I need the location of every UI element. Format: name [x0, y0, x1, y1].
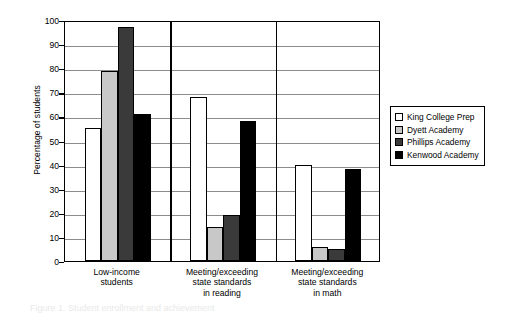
y-tick-mark-70 — [59, 93, 64, 94]
bar-g1-s0 — [190, 97, 207, 261]
y-tick-mark-60 — [59, 117, 64, 118]
y-tick-mark-20 — [59, 214, 64, 215]
x-label-line: students — [57, 277, 177, 287]
x-label-line: Meeting/exceeding — [267, 267, 387, 277]
bar-g0-s2 — [118, 27, 135, 261]
y-tick-label-90: 90 — [33, 41, 59, 50]
legend-item-0: King College Prep — [395, 111, 479, 124]
bar-g0-s1 — [101, 71, 118, 261]
y-tick-label-10: 10 — [33, 234, 59, 243]
gridline-90 — [65, 46, 379, 47]
y-tick-mark-10 — [59, 238, 64, 239]
bar-g1-s2 — [223, 215, 240, 261]
bar-g1-s1 — [207, 227, 224, 261]
x-axis-group-label-1: Meeting/exceedingstate standardsin readi… — [162, 267, 282, 298]
chart-legend: King College PrepDyett AcademyPhillips A… — [390, 106, 485, 166]
x-label-line: state standards — [162, 277, 282, 287]
legend-item-2: Phillips Academy — [395, 136, 479, 149]
plot-area — [64, 21, 380, 262]
x-label-line: state standards — [267, 277, 387, 287]
y-tick-label-30: 30 — [33, 185, 59, 194]
y-tick-mark-0 — [59, 262, 64, 263]
bar-g0-s0 — [85, 128, 102, 261]
legend-label: King College Prep — [407, 113, 475, 121]
legend-swatch-icon — [395, 126, 403, 134]
group-separator-1 — [276, 22, 277, 261]
y-tick-mark-50 — [59, 142, 64, 143]
legend-swatch-icon — [395, 113, 403, 121]
y-tick-mark-100 — [59, 21, 64, 22]
y-tick-mark-40 — [59, 166, 64, 167]
legend-item-3: Kenwood Academy — [395, 149, 479, 162]
x-axis-group-label-0: Low-incomestudents — [57, 267, 177, 288]
bar-g2-s2 — [328, 249, 345, 261]
legend-label: Dyett Academy — [407, 126, 463, 134]
y-tick-label-0: 0 — [33, 258, 59, 267]
y-tick-label-70: 70 — [33, 89, 59, 98]
y-tick-label-40: 40 — [33, 161, 59, 170]
legend-swatch-icon — [395, 138, 403, 146]
y-tick-label-60: 60 — [33, 113, 59, 122]
bar-g2-s3 — [345, 169, 362, 261]
y-tick-mark-90 — [59, 45, 64, 46]
y-tick-label-50: 50 — [33, 137, 59, 146]
y-tick-mark-80 — [59, 69, 64, 70]
legend-label: Kenwood Academy — [407, 151, 479, 159]
bar-g2-s0 — [295, 165, 312, 261]
legend-label: Phillips Academy — [407, 138, 470, 146]
y-tick-label-100: 100 — [33, 17, 59, 26]
figure-caption: Figure 1. Student enrollment and achieve… — [30, 303, 215, 313]
y-tick-label-20: 20 — [33, 210, 59, 219]
y-tick-mark-30 — [59, 190, 64, 191]
x-label-line: Low-income — [57, 267, 177, 277]
y-axis-tick-labels: 0102030405060708090100 — [29, 21, 59, 262]
legend-swatch-icon — [395, 151, 403, 159]
x-label-line: Meeting/exceeding — [162, 267, 282, 277]
bar-chart-figure: Percentage of students 01020304050607080… — [0, 0, 506, 313]
x-axis-group-label-2: Meeting/exceedingstate standardsin math — [267, 267, 387, 298]
bar-g2-s1 — [312, 247, 329, 261]
y-tick-label-80: 80 — [33, 65, 59, 74]
x-label-line: in math — [267, 288, 387, 298]
bar-g1-s3 — [240, 121, 257, 261]
x-label-line: in reading — [162, 288, 282, 298]
bar-g0-s3 — [134, 114, 151, 261]
group-separator-0 — [170, 22, 171, 261]
legend-item-1: Dyett Academy — [395, 124, 479, 137]
